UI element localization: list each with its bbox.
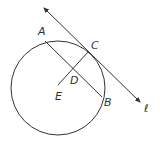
- circle: [11, 41, 105, 135]
- label-point-e: E: [55, 90, 62, 103]
- tangent-line-l: [44, 8, 140, 102]
- label-point-c: C: [91, 39, 99, 52]
- label-point-b: B: [104, 96, 112, 109]
- geometry-diagram: A C D E B ℓ: [0, 0, 160, 143]
- label-point-a: A: [37, 25, 46, 38]
- label-point-d: D: [70, 74, 78, 87]
- diagram-canvas: A C D E B ℓ: [0, 0, 160, 143]
- label-line-l: ℓ: [143, 102, 149, 115]
